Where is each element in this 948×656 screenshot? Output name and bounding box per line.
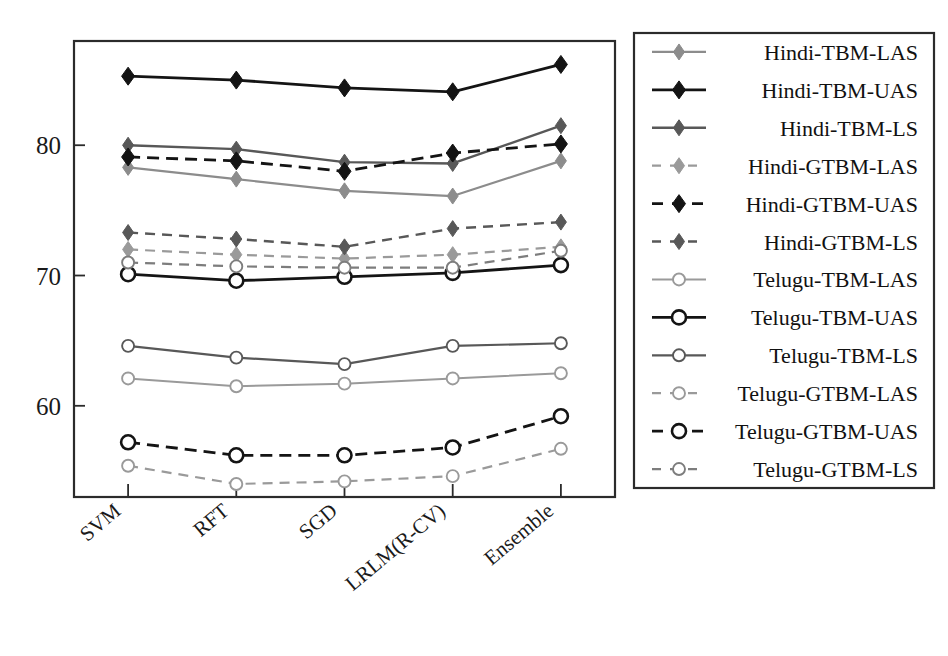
line-chart: 607080SVMRFTSGDLRLM(R-CV)EnsembleHindi-T…	[0, 0, 948, 656]
data-point-marker-circle	[339, 475, 351, 487]
legend-item-label: Hindi-TBM-LAS	[764, 40, 918, 65]
data-point-marker-circle	[122, 460, 134, 472]
legend-item-label: Hindi-GTBM-LAS	[748, 154, 918, 179]
data-point-marker-circle	[230, 352, 242, 364]
data-point-marker-circle	[229, 274, 243, 288]
y-axis-tick-label: 60	[36, 393, 61, 420]
data-point-marker-circle	[447, 372, 459, 384]
x-axis-tick-label: RFT	[189, 498, 234, 541]
data-point-marker-circle	[339, 262, 351, 274]
legend-item-label: Telugu-TBM-LS	[769, 343, 918, 368]
legend-item-label: Telugu-TBM-LAS	[753, 267, 918, 292]
y-axis-tick-label: 80	[36, 132, 61, 159]
data-point-marker-circle	[339, 378, 351, 390]
data-point-marker-circle	[230, 478, 242, 490]
x-axis-tick-label-group: RFT	[189, 498, 234, 541]
x-axis-tick-label-group: SGD	[294, 498, 342, 543]
data-point-marker-circle	[447, 262, 459, 274]
legend-item-label: Hindi-TBM-LS	[780, 116, 918, 141]
figure-container: 607080SVMRFTSGDLRLM(R-CV)EnsembleHindi-T…	[0, 0, 948, 656]
data-point-marker-circle	[447, 340, 459, 352]
legend-item-label: Hindi-GTBM-UAS	[746, 192, 918, 217]
data-point-marker-circle	[229, 448, 243, 462]
data-point-marker-circle	[122, 256, 134, 268]
legend-item-label: Telugu-TBM-UAS	[751, 305, 918, 330]
data-point-marker-circle	[230, 260, 242, 272]
x-axis-tick-label-group: SVM	[75, 498, 126, 546]
legend-item-label: Telugu-GTBM-LAS	[737, 381, 918, 406]
x-axis-tick-label: LRLM(R-CV)	[341, 498, 450, 595]
data-point-marker-circle	[555, 367, 567, 379]
y-axis-tick-label: 70	[36, 263, 61, 290]
data-point-marker-circle	[673, 463, 685, 475]
legend-item-label: Telugu-GTBM-UAS	[735, 419, 918, 444]
data-point-marker-circle	[672, 310, 686, 324]
legend-item-label: Telugu-GTBM-LS	[753, 457, 918, 482]
data-point-marker-circle	[230, 380, 242, 392]
x-axis-tick-label-group: Ensemble	[479, 498, 558, 570]
data-point-marker-circle	[673, 273, 685, 285]
data-point-marker-circle	[338, 448, 352, 462]
x-axis-tick-label: SGD	[294, 498, 342, 543]
x-axis-tick-label: Ensemble	[479, 498, 558, 570]
data-point-marker-circle	[447, 470, 459, 482]
data-point-marker-circle	[122, 372, 134, 384]
legend-item-label: Hindi-TBM-UAS	[762, 78, 918, 103]
data-point-marker-circle	[122, 340, 134, 352]
data-point-marker-circle	[554, 258, 568, 272]
data-point-marker-circle	[555, 337, 567, 349]
legend: Hindi-TBM-LASHindi-TBM-UASHindi-TBM-LSHi…	[634, 33, 934, 488]
x-axis-tick-label-group: LRLM(R-CV)	[341, 498, 450, 595]
data-point-marker-circle	[555, 443, 567, 455]
data-point-marker-circle	[672, 424, 686, 438]
data-point-marker-circle	[446, 440, 460, 454]
data-point-marker-circle	[339, 358, 351, 370]
data-point-marker-circle	[554, 409, 568, 423]
data-point-marker-circle	[555, 245, 567, 257]
x-axis-tick-label: SVM	[75, 498, 126, 546]
legend-item-label: Hindi-GTBM-LS	[764, 230, 918, 255]
data-point-marker-circle	[121, 435, 135, 449]
data-point-marker-circle	[673, 387, 685, 399]
data-point-marker-circle	[673, 349, 685, 361]
